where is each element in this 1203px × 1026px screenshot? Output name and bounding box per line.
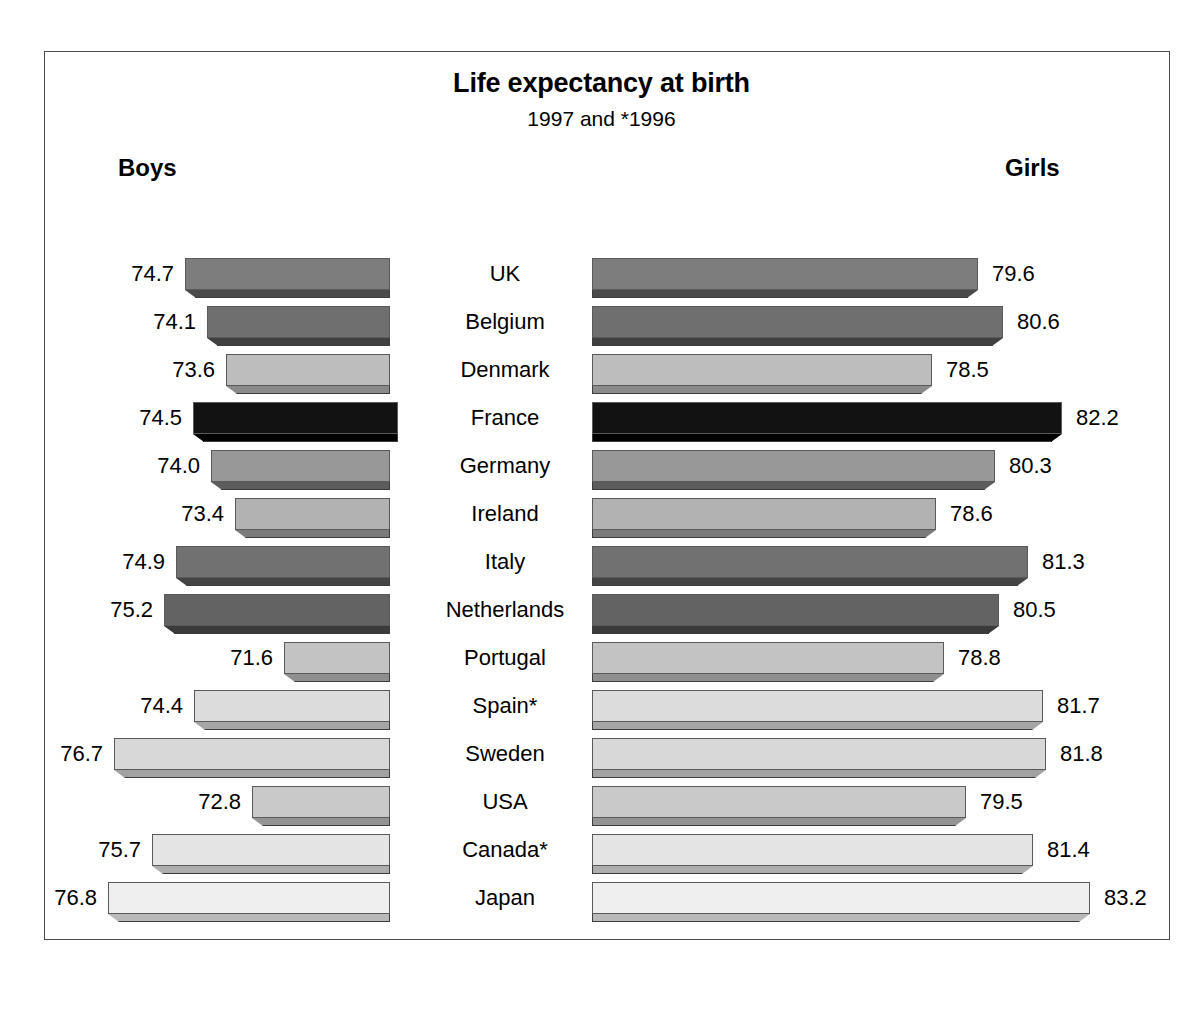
bar-shadow: [592, 338, 993, 346]
chart-subtitle: 1997 and *1996: [0, 107, 1203, 131]
bar-face: [592, 786, 966, 818]
value-label-girls: 78.8: [958, 645, 1001, 671]
bar-girls: [592, 258, 978, 298]
bar-shadow: [294, 674, 390, 682]
bar-shadow: [592, 914, 1080, 922]
bar-shadow: [118, 914, 390, 922]
bar-shadow: [217, 338, 390, 346]
bar-girls: [592, 642, 944, 682]
category-label: Germany: [420, 452, 590, 480]
bar-face: [592, 690, 1043, 722]
bar-face: [592, 546, 1028, 578]
bar-face: [108, 882, 390, 914]
bar-shadow: [592, 674, 934, 682]
bar-bevel-cap: [207, 338, 218, 346]
bar-bevel-cap: [164, 626, 175, 634]
bar-girls: [592, 546, 1028, 586]
value-label-boys: 76.7: [60, 741, 103, 767]
category-label: France: [420, 404, 590, 432]
bar-bevel-cap: [984, 482, 995, 490]
category-label: Italy: [420, 548, 590, 576]
bar-shadow: [592, 434, 1052, 442]
bar-row: 75.2Netherlands80.5: [0, 594, 1203, 642]
bar-row: 74.7UK79.6: [0, 258, 1203, 306]
bar-girls: [592, 834, 1033, 874]
category-label: Denmark: [420, 356, 590, 384]
bar-girls: [592, 882, 1090, 922]
bar-girls: [592, 306, 1003, 346]
bar-bevel-cap: [108, 914, 119, 922]
bar-bevel-cap: [226, 386, 237, 394]
bar-bevel-cap: [235, 530, 246, 538]
bar-row: 75.7Canada*81.4: [0, 834, 1203, 882]
column-header-boys: Boys: [118, 154, 177, 182]
bar-face: [592, 738, 1046, 770]
bar-face: [207, 306, 390, 338]
bar-girls: [592, 738, 1046, 778]
value-label-girls: 82.2: [1076, 405, 1119, 431]
bar-face: [185, 258, 390, 290]
category-label: Ireland: [420, 500, 590, 528]
bar-row: 73.4Ireland78.6: [0, 498, 1203, 546]
value-label-girls: 81.4: [1047, 837, 1090, 863]
value-label-girls: 78.5: [946, 357, 989, 383]
bar-face: [226, 354, 390, 386]
value-label-girls: 80.5: [1013, 597, 1056, 623]
bar-face: [592, 402, 1062, 434]
category-label: Portugal: [420, 644, 590, 672]
bar-shadow: [162, 866, 390, 874]
bar-bevel-cap: [211, 482, 222, 490]
value-label-boys: 73.4: [181, 501, 224, 527]
bar-boys: [185, 258, 390, 298]
bar-bevel-cap: [1079, 914, 1090, 922]
bar-bevel-cap: [992, 338, 1003, 346]
bar-shadow: [204, 722, 390, 730]
bar-row: 74.5France82.2: [0, 402, 1203, 450]
bar-bevel-cap: [925, 530, 936, 538]
bar-boys: [226, 354, 390, 394]
value-label-boys: 73.6: [172, 357, 215, 383]
bar-bevel-cap: [176, 578, 187, 586]
bar-face: [592, 594, 999, 626]
bar-row: 74.9Italy81.3: [0, 546, 1203, 594]
bar-shadow: [592, 722, 1033, 730]
column-header-girls: Girls: [1005, 154, 1060, 182]
bar-bevel-cap: [955, 818, 966, 826]
bar-face: [284, 642, 390, 674]
bar-face: [194, 690, 390, 722]
value-label-boys: 74.4: [140, 693, 183, 719]
bar-girls: [592, 402, 1062, 442]
category-label: Spain*: [420, 692, 590, 720]
bar-bevel-cap: [1051, 434, 1062, 442]
bar-face: [592, 882, 1090, 914]
bar-row: 74.0Germany80.3: [0, 450, 1203, 498]
value-label-boys: 75.7: [98, 837, 141, 863]
bar-bevel-cap: [1032, 722, 1043, 730]
category-label: Japan: [420, 884, 590, 912]
bar-bevel-cap: [933, 674, 944, 682]
value-label-boys: 74.7: [131, 261, 174, 287]
bar-face: [211, 450, 390, 482]
bar-boys: [284, 642, 390, 682]
bar-bevel-cap: [967, 290, 978, 298]
bar-face: [592, 450, 995, 482]
bar-face: [592, 258, 978, 290]
bar-row: 74.1Belgium80.6: [0, 306, 1203, 354]
bar-shadow: [592, 482, 985, 490]
bar-bevel-cap: [921, 386, 932, 394]
bar-bevel-cap: [1022, 866, 1033, 874]
bar-shadow: [245, 530, 390, 538]
bar-face: [193, 402, 398, 434]
bar-boys: [194, 690, 390, 730]
category-label: Netherlands: [420, 596, 590, 624]
value-label-girls: 81.8: [1060, 741, 1103, 767]
bar-shadow: [592, 626, 989, 634]
bar-shadow: [592, 530, 926, 538]
bar-bevel-cap: [252, 818, 263, 826]
bar-boys: [114, 738, 390, 778]
bar-shadow: [195, 290, 390, 298]
bar-girls: [592, 354, 932, 394]
bar-boys: [252, 786, 390, 826]
bar-shadow: [592, 290, 968, 298]
bar-rows: 74.7UK79.674.1Belgium80.673.6Denmark78.5…: [0, 258, 1203, 930]
